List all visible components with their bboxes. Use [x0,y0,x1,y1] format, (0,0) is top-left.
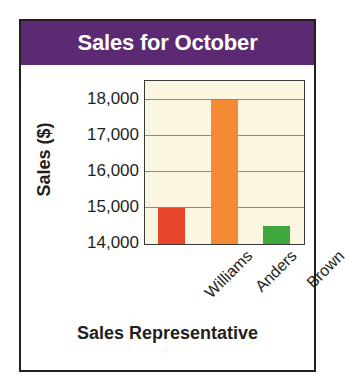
y-axis-title: Sales ($) [34,105,55,215]
x-tick-label: Brown [303,247,348,292]
plot-area [144,80,305,245]
y-tick-label: 17,000 [57,126,139,143]
bar-anders [211,100,238,244]
y-tick-label: 18,000 [57,90,139,107]
bar-series [145,81,304,244]
x-axis-tick-labels: WilliamsAndersBrown [144,247,305,317]
x-tick-label: Williams [202,247,257,302]
y-axis-tick-labels: 14,00015,00016,00017,00018,000 [57,80,139,250]
y-tick-label: 15,000 [57,198,139,215]
chart-title: Sales for October [78,30,258,56]
chart-title-banner: Sales for October [21,21,314,65]
bar-brown [263,226,290,244]
bar-williams [158,208,185,244]
chart-figure: Sales for October Sales ($) 14,00015,000… [19,19,316,372]
y-tick-label: 14,000 [57,234,139,251]
y-tick-label: 16,000 [57,162,139,179]
x-tick-label: Anders [252,247,301,296]
x-axis-title: Sales Representative [21,323,314,344]
